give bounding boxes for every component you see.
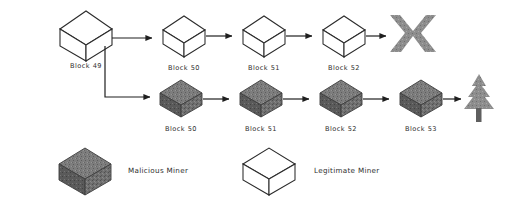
x-cross-icon	[390, 15, 436, 52]
block-node-legit-50	[163, 16, 205, 57]
tree-foliage	[464, 74, 494, 109]
block-node-malicious-53	[400, 80, 442, 117]
block-label-malicious-52: Block 52	[325, 125, 357, 133]
block-node-legit-52	[323, 16, 365, 57]
block-label-genesis: Block 49	[70, 62, 102, 70]
legend-label-malicious-miner: Malicious Miner	[128, 166, 188, 175]
block-label-malicious-53: Block 53	[405, 125, 437, 133]
diagram-canvas	[0, 0, 513, 205]
malicious-cube-icon	[59, 148, 111, 195]
block-label-malicious-50: Block 50	[165, 125, 197, 133]
block-node-malicious-51	[240, 80, 282, 117]
edge-genesis-to-malicious-50	[105, 46, 150, 97]
block-label-malicious-51: Block 51	[245, 125, 277, 133]
tree-icon	[464, 74, 494, 122]
block-node-malicious-52	[320, 80, 362, 117]
legitimate-cube-icon	[243, 148, 295, 195]
block-label-legit-50: Block 50	[168, 64, 200, 72]
block-label-legit-51: Block 51	[248, 64, 280, 72]
block-label-legit-52: Block 52	[328, 64, 360, 72]
legend-label-legitimate-miner: Legitimate Miner	[314, 166, 380, 175]
block-node-malicious-50	[160, 80, 202, 117]
blockchain-fork-diagram: Block 49 Block 50 Block 51 Block 52 Bloc…	[0, 0, 513, 205]
block-node-genesis	[60, 11, 112, 61]
tree-trunk	[476, 108, 482, 122]
block-node-legit-51	[243, 16, 285, 57]
